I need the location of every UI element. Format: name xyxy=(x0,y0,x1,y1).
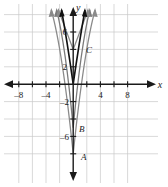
x-axis-arrowhead-right xyxy=(147,80,156,88)
y-tick-label-2: 2 xyxy=(63,62,68,72)
x-tick-label-neg8: –8 xyxy=(13,90,24,100)
curve-label-a: A xyxy=(80,152,87,162)
x-tick-label-8: 8 xyxy=(125,90,130,100)
x-axis-label: x xyxy=(157,79,163,90)
y-tick-label-neg6: –6 xyxy=(59,132,70,142)
curve-label-c: C xyxy=(86,45,93,55)
x-tick-label-4: 4 xyxy=(98,90,103,100)
parabola-graph-figure: –8 –4 4 8 x 6 2 –2 –6 y xyxy=(0,0,168,187)
curve-label-b: B xyxy=(79,124,85,134)
y-axis-label: y xyxy=(75,2,81,13)
x-axis: –8 –4 4 8 x xyxy=(4,79,163,100)
x-axis-arrowhead-left xyxy=(4,80,13,88)
coordinate-plane-svg: –8 –4 4 8 x 6 2 –2 –6 y xyxy=(0,0,168,187)
parabola-a-arrowhead-right xyxy=(92,8,98,17)
parabola-a-arrowhead-left xyxy=(49,8,55,17)
y-tick-label-neg2: –2 xyxy=(59,97,69,107)
y-tick-label-6: 6 xyxy=(63,27,68,37)
x-tick-label-neg4: –4 xyxy=(41,90,52,100)
y-axis-arrowhead-bottom xyxy=(70,172,78,181)
